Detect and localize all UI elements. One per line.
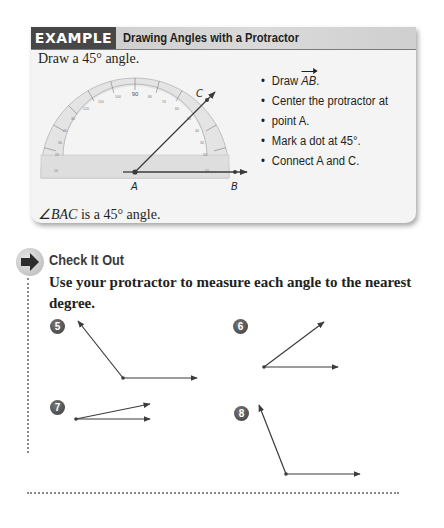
angle-problem-8 xyxy=(259,405,360,476)
angle-problem-5 xyxy=(78,321,197,380)
angle-problem-7 xyxy=(74,404,150,421)
practice-angles xyxy=(0,0,444,528)
angle-problem-6 xyxy=(262,322,338,369)
